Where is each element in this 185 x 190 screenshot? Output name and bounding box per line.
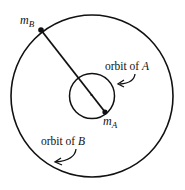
connecting-line (41, 30, 105, 112)
mass-b-label: mB (20, 13, 35, 29)
orbit-b-label: orbit of B (41, 135, 85, 147)
orbit-diagram: mB mA orbit of A orbit of B (0, 0, 185, 190)
mass-a-label: mA (103, 114, 118, 130)
orbit-a-label: orbit of A (105, 60, 150, 72)
orbit-a-arrow (120, 74, 135, 84)
center-of-mass-dot (90, 94, 92, 96)
mass-b-dot (38, 27, 44, 33)
